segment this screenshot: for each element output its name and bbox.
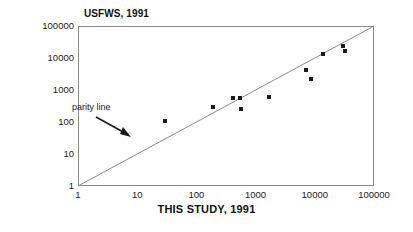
x-tick-label: 100000 <box>344 189 404 200</box>
x-axis-title: THIS STUDY, 1991 <box>0 203 413 215</box>
data-point <box>304 68 308 72</box>
data-point <box>238 96 242 100</box>
chart-title: USFWS, 1991 <box>84 8 149 19</box>
data-point <box>239 107 243 111</box>
data-point <box>163 119 167 123</box>
data-point <box>341 44 345 48</box>
y-tick-label: 100000 <box>26 20 74 31</box>
data-point <box>231 96 235 100</box>
y-tick-label: 100 <box>26 116 74 127</box>
parity-line-annotation-label: parity line <box>72 102 111 112</box>
data-point <box>211 105 215 109</box>
data-point <box>321 52 325 56</box>
x-tick-label: 10 <box>107 189 167 200</box>
y-tick-label: 1000 <box>26 84 74 95</box>
x-tick-label: 10000 <box>285 189 345 200</box>
x-tick-label: 100 <box>166 189 226 200</box>
y-tick-label: 10 <box>26 148 74 159</box>
x-tick-label: 1000 <box>226 189 286 200</box>
plot-frame <box>78 26 374 186</box>
y-tick-label: 10000 <box>26 52 74 63</box>
data-point <box>267 95 271 99</box>
chart-figure: USFWS, 1991 110100100010000100000 110100… <box>0 0 413 232</box>
x-tick-label: 1 <box>48 189 108 200</box>
data-point <box>309 77 313 81</box>
data-point <box>343 49 347 53</box>
